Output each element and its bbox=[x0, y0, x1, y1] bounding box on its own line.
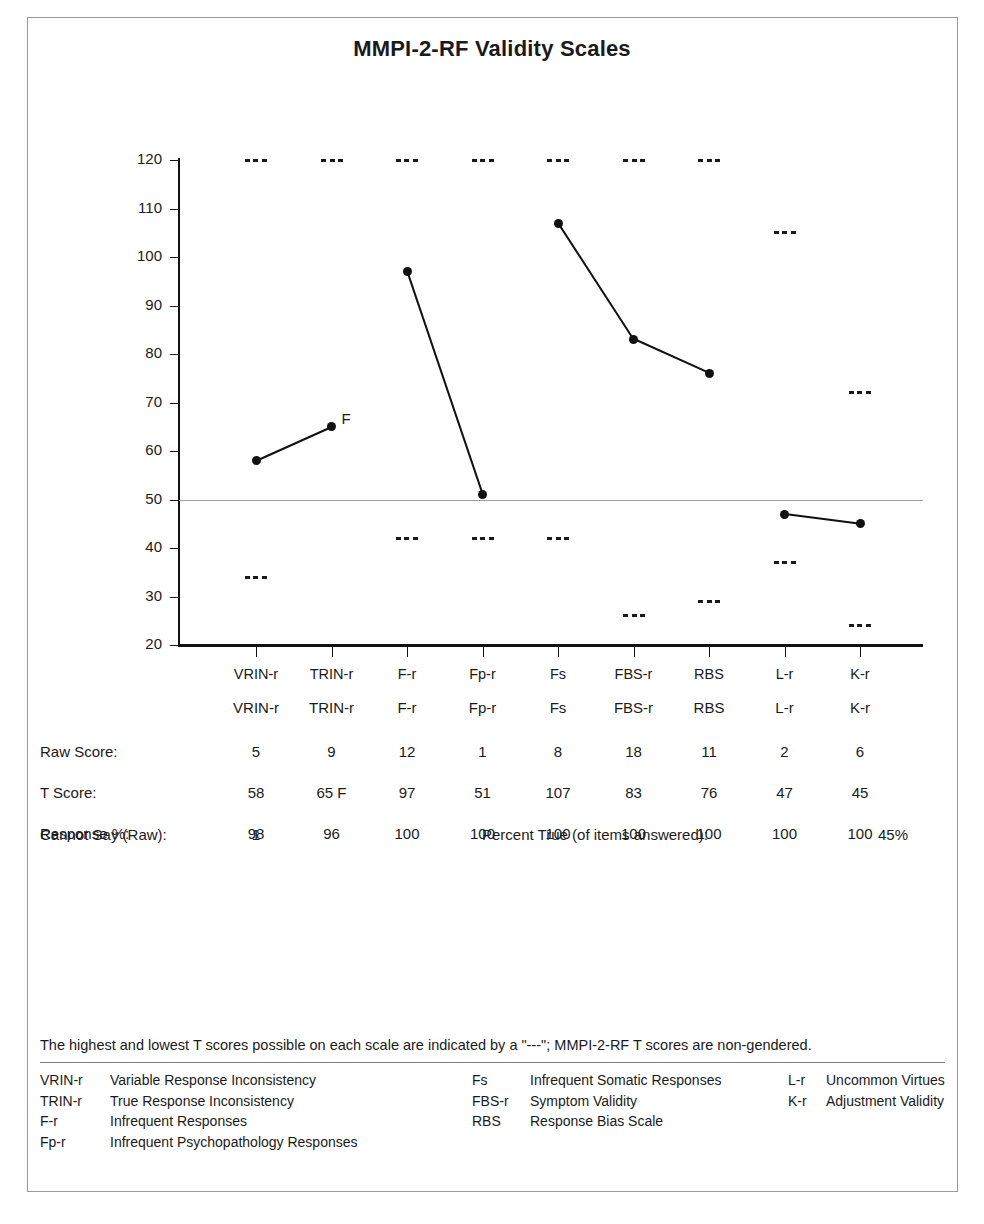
data-point-fbs-r[interactable] bbox=[629, 335, 638, 344]
x-axis-tick bbox=[256, 647, 257, 657]
cannot-say-value: 1 bbox=[211, 826, 301, 843]
legend-divider bbox=[40, 1062, 945, 1063]
y-axis-label: 120 bbox=[120, 151, 162, 166]
legend-scale-name: Infrequent Somatic Responses bbox=[530, 1072, 721, 1088]
y-axis-label: 70 bbox=[120, 394, 162, 409]
max-limit-dash-vrin-r bbox=[245, 159, 267, 162]
x-axis-tick bbox=[709, 647, 710, 657]
y-axis-tick bbox=[170, 500, 179, 501]
table-column-header-k-r: K-r bbox=[815, 699, 905, 716]
data-point-fs[interactable] bbox=[554, 219, 563, 228]
max-limit-dash-l-r bbox=[774, 231, 796, 234]
y-axis-label: 60 bbox=[120, 442, 162, 457]
trin-direction-flag: F bbox=[342, 410, 351, 427]
percent-true-label: Percent True (of items answered): bbox=[482, 826, 708, 843]
legend-abbreviation: Fp-r bbox=[40, 1134, 66, 1150]
legend-abbreviation: RBS bbox=[472, 1113, 501, 1129]
y-axis-label: 90 bbox=[120, 297, 162, 312]
max-limit-dash-fbs-r bbox=[623, 159, 645, 162]
data-point-vrin-r[interactable] bbox=[252, 456, 261, 465]
x-axis-tick bbox=[634, 647, 635, 657]
x-axis-tick bbox=[332, 647, 333, 657]
min-limit-dash-l-r bbox=[774, 561, 796, 564]
table-header-row: VRIN-rTRIN-rF-rFp-rFsFBS-rRBSL-rK-r bbox=[40, 699, 945, 719]
y-axis-tick bbox=[170, 209, 179, 210]
max-limit-dash-fs bbox=[547, 159, 569, 162]
data-point-l-r[interactable] bbox=[780, 510, 789, 519]
table-row-label: T Score: bbox=[40, 784, 96, 801]
legend-row: K-rAdjustment Validity bbox=[788, 1093, 984, 1114]
legend-column-3: L-rUncommon VirtuesK-rAdjustment Validit… bbox=[788, 1072, 984, 1113]
legend-abbreviation: Fs bbox=[472, 1072, 488, 1088]
min-limit-dash-k-r bbox=[849, 624, 871, 627]
y-axis-tick bbox=[170, 451, 179, 452]
legend-abbreviation: L-r bbox=[788, 1072, 805, 1088]
legend-row: F-rInfrequent Responses bbox=[40, 1113, 460, 1134]
legend-scale-name: Variable Response Inconsistency bbox=[110, 1072, 316, 1088]
legend-row: FBS-rSymptom Validity bbox=[472, 1093, 772, 1114]
legend-abbreviation: F-r bbox=[40, 1113, 58, 1129]
legend-row: TRIN-rTrue Response Inconsistency bbox=[40, 1093, 460, 1114]
cannot-say-row: Cannot Say (Raw): 1 Percent True (of ite… bbox=[40, 826, 945, 848]
legend-row: L-rUncommon Virtues bbox=[788, 1072, 984, 1093]
legend-scale-name: Uncommon Virtues bbox=[826, 1072, 945, 1088]
page-title: MMPI-2-RF Validity Scales bbox=[0, 36, 984, 62]
x-axis-tick bbox=[785, 647, 786, 657]
table-cell: 6 bbox=[815, 743, 905, 760]
min-limit-dash-rbs bbox=[698, 600, 720, 603]
y-axis-label: 110 bbox=[120, 200, 162, 215]
legend-abbreviation: VRIN-r bbox=[40, 1072, 83, 1088]
data-point-k-r[interactable] bbox=[856, 519, 865, 528]
y-axis-tick bbox=[170, 403, 179, 404]
table-cell: 45 bbox=[815, 784, 905, 801]
legend-row: VRIN-rVariable Response Inconsistency bbox=[40, 1072, 460, 1093]
y-axis-tick bbox=[170, 597, 179, 598]
y-axis-tick bbox=[170, 548, 179, 549]
max-limit-dash-trin-r bbox=[321, 159, 343, 162]
legend-scale-name: Symptom Validity bbox=[530, 1093, 637, 1109]
x-axis-tick bbox=[860, 647, 861, 657]
y-axis-tick bbox=[170, 257, 179, 258]
percent-true-value: 45% bbox=[878, 826, 908, 843]
legend-scale-name: True Response Inconsistency bbox=[110, 1093, 294, 1109]
legend-column-2: FsInfrequent Somatic ResponsesFBS-rSympt… bbox=[472, 1072, 772, 1134]
legend-column-1: VRIN-rVariable Response InconsistencyTRI… bbox=[40, 1072, 460, 1154]
y-axis-label: 100 bbox=[120, 248, 162, 263]
table-row-label: Raw Score: bbox=[40, 743, 118, 760]
y-axis-label: 40 bbox=[120, 539, 162, 554]
min-limit-dash-vrin-r bbox=[245, 576, 267, 579]
table-row: T Score:5865 F975110783764745 bbox=[40, 784, 945, 804]
data-point-f-r[interactable] bbox=[403, 267, 412, 276]
legend-abbreviation: K-r bbox=[788, 1093, 807, 1109]
x-axis-label-k-r: K-r bbox=[815, 666, 905, 682]
min-limit-dash-fs bbox=[547, 537, 569, 540]
reference-line-50 bbox=[178, 500, 923, 501]
y-axis-label: 80 bbox=[120, 345, 162, 360]
max-limit-dash-rbs bbox=[698, 159, 720, 162]
legend-scale-name: Infrequent Responses bbox=[110, 1113, 247, 1129]
min-limit-dash-fbs-r bbox=[623, 614, 645, 617]
legend-abbreviation: FBS-r bbox=[472, 1093, 509, 1109]
report-page-frame bbox=[27, 17, 958, 1192]
data-point-rbs[interactable] bbox=[705, 369, 714, 378]
legend-scale-name: Response Bias Scale bbox=[530, 1113, 663, 1129]
x-axis-tick bbox=[483, 647, 484, 657]
legend-row: Fp-rInfrequent Psychopathology Responses bbox=[40, 1134, 460, 1155]
x-axis-line bbox=[178, 644, 923, 647]
min-limit-dash-fp-r bbox=[472, 537, 494, 540]
y-axis-tick bbox=[170, 645, 179, 646]
legend-scale-name: Adjustment Validity bbox=[826, 1093, 944, 1109]
legend-row: RBSResponse Bias Scale bbox=[472, 1113, 772, 1134]
y-axis-label: 30 bbox=[120, 588, 162, 603]
x-axis-tick bbox=[558, 647, 559, 657]
cannot-say-label: Cannot Say (Raw): bbox=[40, 826, 167, 843]
min-limit-dash-f-r bbox=[396, 537, 418, 540]
legend-abbreviation: TRIN-r bbox=[40, 1093, 82, 1109]
max-limit-dash-k-r bbox=[849, 391, 871, 394]
y-axis-tick bbox=[170, 306, 179, 307]
legend-row: FsInfrequent Somatic Responses bbox=[472, 1072, 772, 1093]
y-axis-label: 20 bbox=[120, 636, 162, 651]
x-axis-tick bbox=[407, 647, 408, 657]
y-axis-tick bbox=[170, 160, 179, 161]
y-axis-label: 50 bbox=[120, 491, 162, 506]
